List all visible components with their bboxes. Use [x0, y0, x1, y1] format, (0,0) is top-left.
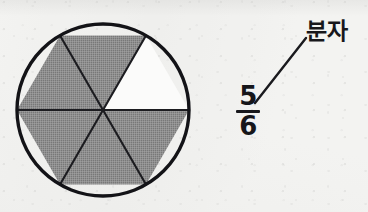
fraction-numerator: 5 [231, 84, 265, 109]
callout-label-numerator: 분자 [306, 16, 348, 46]
scan-smudge-band [0, 0, 368, 16]
fraction-pie-diagram [13, 20, 193, 200]
scanned-figure-page: 5 6 분자 [0, 0, 368, 212]
fraction-denominator: 6 [231, 114, 265, 139]
fraction-five-sixths: 5 6 [231, 84, 265, 139]
